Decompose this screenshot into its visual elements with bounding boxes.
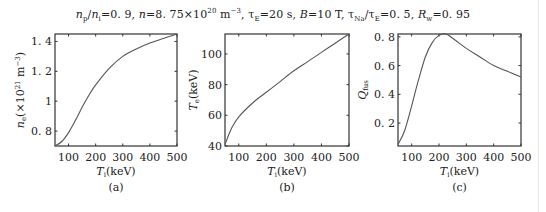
x-tick-label: 200: [429, 151, 450, 164]
x-axis-label: Ti(keV): [267, 165, 306, 179]
y-tick-label: 0. 4: [374, 88, 395, 101]
data-line: [225, 34, 349, 144]
y-tick-label: 0. 6: [374, 60, 395, 73]
y-tick-label: 100: [201, 48, 222, 61]
data-line: [398, 34, 521, 145]
x-tick-label: 500: [339, 151, 360, 164]
x-tick-label: 100: [228, 151, 249, 164]
y-tick-label: 80: [208, 79, 222, 92]
y-tick-label: 0. 8: [31, 125, 52, 138]
x-tick-label: 400: [139, 151, 160, 164]
x-tick-label: 500: [167, 151, 188, 164]
plot-frame: [55, 34, 177, 146]
chart-panel-c: 1002003004005000. 20. 40. 60. 8Ti(keV)(c…: [356, 31, 532, 194]
x-tick-label: 300: [456, 151, 477, 164]
y-tick-label: 1: [45, 95, 52, 108]
panel-label: (a): [108, 181, 123, 194]
y-axis-label: Qfus: [356, 80, 370, 100]
chart-panel-a: 1002003004005000. 811. 21. 4Ti(keV)(a)ne…: [14, 34, 188, 194]
x-tick-label: 300: [112, 151, 133, 164]
x-tick-label: 100: [401, 151, 422, 164]
chart-panel-b: 100200300400500406080100Ti(keV)(b)Te(keV…: [187, 34, 360, 194]
plot-frame: [398, 34, 521, 146]
y-tick-label: 1. 4: [31, 35, 52, 48]
y-axis-label: ne(×1021 m−3): [14, 52, 28, 128]
x-tick-label: 300: [283, 151, 304, 164]
y-tick-label: 0. 8: [374, 31, 395, 44]
y-tick-label: 40: [208, 140, 222, 153]
y-axis-label: Te(keV): [187, 69, 201, 110]
x-tick-label: 400: [483, 151, 504, 164]
panel-label: (c): [452, 181, 467, 194]
y-tick-label: 60: [208, 109, 222, 122]
x-axis-label: Ti(keV): [96, 165, 135, 179]
data-line: [55, 34, 177, 146]
page-edge-divider: [538, 0, 539, 212]
x-axis-label: Ti(keV): [440, 165, 479, 179]
y-tick-label: 1. 2: [31, 65, 52, 78]
x-tick-label: 200: [85, 151, 106, 164]
x-tick-label: 100: [58, 151, 79, 164]
x-tick-label: 500: [511, 151, 532, 164]
y-tick-label: 0. 2: [374, 117, 395, 130]
panel-label: (b): [279, 181, 295, 194]
plot-frame: [225, 34, 349, 146]
x-tick-label: 400: [311, 151, 332, 164]
x-tick-label: 200: [256, 151, 277, 164]
figure-charts: 1002003004005000. 811. 21. 4Ti(keV)(a)ne…: [0, 0, 546, 212]
